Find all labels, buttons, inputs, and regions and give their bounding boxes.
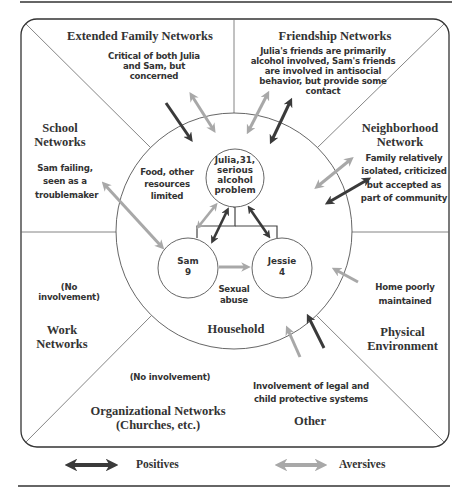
sector-note-organizational: (No involvement) xyxy=(120,373,220,383)
sector-title-other: Other xyxy=(280,414,340,428)
sector-note-school: Sam failing, seen as a troublemaker xyxy=(35,162,95,202)
sector-note-neighborhood: Family relatively isolated, criticized b… xyxy=(360,152,448,205)
resources-note: Food, other resources limited xyxy=(128,166,206,202)
sector-note-friendship: Julia's friends are primarily alcohol in… xyxy=(244,47,402,96)
household-circle xyxy=(116,113,352,349)
sector-title-friendship: Friendship Networks xyxy=(260,29,410,43)
sector-title-school: School Networks xyxy=(30,121,90,150)
sam-age: 9 xyxy=(168,267,208,278)
arrow-other-positive xyxy=(309,318,324,348)
sector-note-work: (No involvement) xyxy=(30,283,108,303)
household-label: Household xyxy=(196,322,276,336)
jessie-age: 4 xyxy=(262,267,302,278)
sector-title-organizational: Organizational Networks (Churches, etc.) xyxy=(88,404,228,433)
julia-desc-1: serious xyxy=(210,165,260,175)
sector-title-work: Work Networks xyxy=(32,323,92,352)
legend-aversives-label: Aversives xyxy=(339,458,399,471)
jessie-name: Jessie xyxy=(262,256,302,267)
arrow-other-aversive xyxy=(288,330,300,357)
sector-note-physical: Home poorly maintained xyxy=(375,281,435,309)
legend-positives-label: Positives xyxy=(136,458,192,471)
julia-label: Julia,31, serious alcohol problem xyxy=(210,155,260,195)
sector-title-physical: Physical Environment xyxy=(360,325,445,354)
sam-label: Sam 9 xyxy=(168,256,208,279)
julia-desc-2: alcohol xyxy=(210,175,260,185)
sexual-abuse-note: Sexual abuse xyxy=(216,284,252,306)
jessie-label: Jessie 4 xyxy=(262,256,302,279)
sector-title-extended-family: Extended Family Networks xyxy=(60,29,220,43)
sector-title-neighborhood: Neighborhood Network xyxy=(355,121,445,150)
julia-desc-3: problem xyxy=(210,185,260,195)
julia-name: Julia,31, xyxy=(210,155,260,165)
sector-note-other: Involvement of legal and child protectiv… xyxy=(252,380,370,406)
sector-note-extended-family: Critical of both Julia and Sam, but conc… xyxy=(98,52,210,82)
sam-name: Sam xyxy=(168,256,208,267)
